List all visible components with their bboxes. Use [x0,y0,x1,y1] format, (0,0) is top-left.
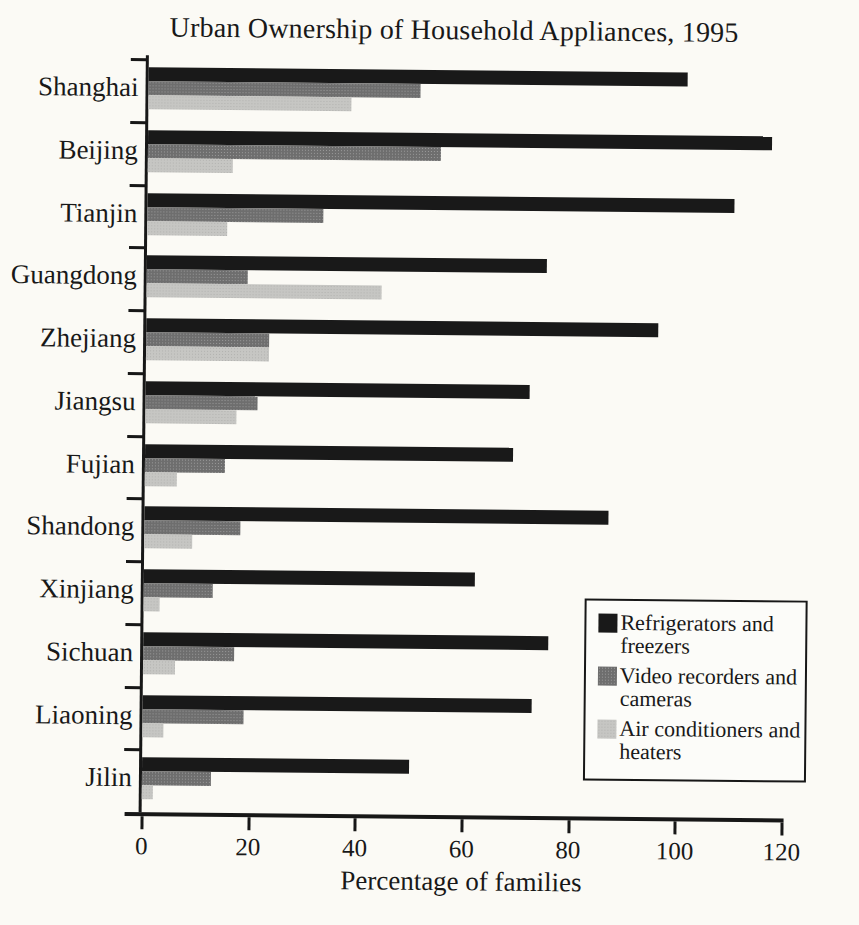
category-label: Liaoning [35,693,133,737]
x-tick [460,819,463,832]
category-label: Fujian [66,442,135,486]
row-beijing: Beijing [148,122,789,191]
bar-group [146,318,786,366]
chart-title: Urban Ownership of Household Appliances,… [122,11,786,49]
bar-video-recorders-cameras [145,395,257,410]
category-label: Sichuan [46,630,133,674]
bar-group [145,444,785,492]
bar-air-conditioners-heaters [148,158,233,173]
row-fujian: Fujian [145,436,786,505]
x-tick-label: 100 [656,837,694,865]
legend-entry: Air conditioners and heaters [597,717,800,765]
bar-video-recorders-cameras [146,332,269,347]
x-tick [567,820,570,833]
legend-swatch [597,720,616,739]
legend-swatch [598,614,617,633]
bar-group [147,256,787,304]
x-tick-label: 40 [342,834,367,862]
row-jiangsu: Jiangsu [145,373,786,442]
bar-air-conditioners-heaters [148,95,351,111]
x-tick-label: 60 [449,835,474,863]
category-label: Shanghai [38,65,139,109]
chart-page: { "chart_data": { "type": "bar", "orient… [0,0,859,925]
bar-video-recorders-cameras [142,771,211,786]
bar-video-recorders-cameras [144,521,240,536]
bar-air-conditioners-heaters [143,660,175,674]
scanned-chart-figure: Urban Ownership of Household Appliances,… [0,0,859,925]
x-tick-label: 120 [762,838,800,866]
bar-video-recorders-cameras [144,583,213,598]
bar-air-conditioners-heaters [144,597,160,611]
bar-air-conditioners-heaters [142,723,163,737]
bar-group [148,130,788,178]
bar-group [147,193,787,241]
category-label: Tianjin [60,191,137,235]
bar-group [148,67,788,115]
bar-group [144,507,784,555]
legend-entries: Refrigerators and freezersVideo recorder… [597,611,801,766]
row-tianjin: Tianjin [147,185,788,254]
legend-label: Refrigerators and freezers [620,611,801,659]
legend: Refrigerators and freezersVideo recorder… [583,598,808,782]
row-guangdong: Guangdong [146,248,787,317]
bar-group [145,381,785,429]
bar-air-conditioners-heaters [145,472,177,486]
category-label: Shandong [26,504,134,548]
legend-label: Air conditioners and heaters [619,717,800,765]
bar-video-recorders-cameras [145,458,225,473]
x-tick [780,822,783,835]
legend-entry: Video recorders and cameras [598,664,801,712]
category-label: Jilin [85,756,132,799]
category-label: Xinjiang [39,567,134,611]
x-tick [354,818,357,831]
bar-video-recorders-cameras [142,709,243,724]
legend-entry: Refrigerators and freezers [598,611,801,659]
x-tick-label: 20 [235,833,260,861]
row-zhejiang: Zhejiang [146,310,787,379]
x-axis-title: Percentage of families [141,863,781,900]
category-label: Guangdong [11,253,137,297]
x-tick-label: 0 [135,832,148,860]
category-label: Zhejiang [40,316,136,360]
category-label: Beijing [58,128,138,172]
bar-video-recorders-cameras [147,270,248,285]
legend-swatch [598,667,617,686]
bar-air-conditioners-heaters [142,785,153,799]
x-tick-label: 80 [555,836,580,864]
x-tick [247,817,250,830]
bar-air-conditioners-heaters [144,535,192,549]
bar-air-conditioners-heaters [147,284,382,300]
x-tick [140,816,143,829]
x-tick [674,821,677,834]
row-shanghai: Shanghai [148,59,789,128]
category-label: Jiangsu [54,379,135,423]
bar-air-conditioners-heaters [145,409,236,424]
bar-air-conditioners-heaters [146,346,269,361]
legend-label: Video recorders and cameras [620,664,801,712]
row-shandong: Shandong [144,499,785,568]
bar-air-conditioners-heaters [147,221,227,236]
bar-video-recorders-cameras [143,646,234,661]
